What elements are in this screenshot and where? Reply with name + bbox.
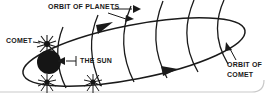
orbit-of-planets-arcs	[58, 0, 228, 88]
planet-orbit-arc-5	[187, 0, 198, 72]
orbit-direction-arrow-upper	[96, 22, 113, 34]
orbit-of-planets-leader-arrow-2	[125, 15, 134, 22]
planet-dot-right	[90, 79, 95, 84]
label-orbit-of-comet-line1: ORBIT OF	[227, 61, 262, 68]
comet-nucleus-dot	[44, 41, 50, 47]
label-the-sun: THE SUN	[80, 57, 112, 64]
label-orbit-of-planets: ORBIT OF PLANETS	[48, 3, 119, 10]
orbit-of-planets-leader-arrow-1	[133, 5, 141, 13]
comet-leader-line	[33, 42, 40, 43]
frame-bottom-rule	[0, 80, 264, 92]
the-sun-disc	[37, 50, 61, 74]
comet-orbit-diagram-svg	[0, 0, 268, 101]
label-comet: COMET	[6, 37, 32, 44]
orbit-of-comet-leader-arrow	[225, 42, 232, 51]
label-orbit-of-comet-line2: COMET	[227, 71, 253, 78]
diagram-canvas: ORBIT OF PLANETS COMET THE SUN ORBIT OF …	[0, 0, 268, 101]
planet-dot-left	[44, 79, 49, 84]
orbit-direction-arrow-lower	[161, 66, 178, 76]
